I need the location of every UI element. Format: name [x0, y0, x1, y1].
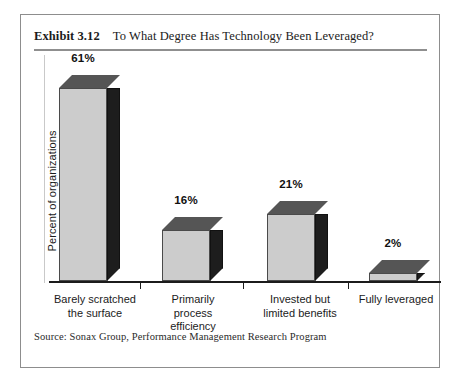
bars-layer: 61% 16% 21% — [21, 55, 439, 283]
x-axis-tick-3 — [348, 283, 349, 289]
bar-value-2: 21% — [267, 178, 315, 190]
x-axis-label-0-line-0: Barely scratched — [41, 293, 149, 307]
exhibit-title: Exhibit 3.12To What Degree Has Technolog… — [34, 29, 426, 44]
bar-value-1: 16% — [162, 194, 210, 206]
source-note: Source: Sonax Group, Performance Managem… — [34, 331, 327, 342]
x-axis-label-0-line-1: the surface — [41, 307, 149, 321]
bar-group-2: 21% — [267, 214, 315, 281]
bar-top-face-2 — [267, 201, 328, 214]
bar-front-face-2 — [267, 214, 315, 281]
x-axis-tick-2 — [243, 283, 244, 289]
bar-front-face-0 — [59, 88, 107, 281]
bar-side-face-2 — [315, 214, 328, 281]
bar-1 — [162, 230, 210, 281]
bar-front-face-3 — [369, 273, 417, 281]
x-axis-label-2-line-1: limited benefits — [247, 307, 353, 321]
exhibit-number: Exhibit 3.12 — [34, 29, 100, 43]
bar-side-face-3 — [417, 273, 430, 281]
bar-chart: Percent of organizations 61% 16% — [21, 55, 439, 327]
bar-side-face-0 — [107, 88, 120, 281]
bar-0 — [59, 88, 107, 281]
exhibit-frame: Exhibit 3.12To What Degree Has Technolog… — [20, 14, 440, 368]
bar-top-face-3 — [369, 260, 430, 273]
x-axis-label-2-line-0: Invested but — [247, 293, 353, 307]
bar-top-face-1 — [162, 217, 223, 230]
x-axis-label-3: Fully leveraged — [351, 293, 441, 307]
bar-group-1: 16% — [162, 230, 210, 281]
bar-2 — [267, 214, 315, 281]
x-axis-label-3-line-0: Fully leveraged — [351, 293, 441, 307]
x-axis-baseline — [49, 281, 441, 283]
x-axis-label-1-line-0: Primarily — [147, 293, 239, 307]
bar-group-3: 2% — [369, 273, 417, 281]
bar-group-0: 61% — [59, 88, 107, 281]
bar-front-face-1 — [162, 230, 210, 281]
exhibit-title-text: To What Degree Has Technology Been Lever… — [113, 29, 374, 43]
x-axis-tick-1 — [140, 283, 141, 289]
x-axis-label-0: Barely scratched the surface — [41, 293, 149, 320]
x-axis-label-1: Primarily process efficiency — [147, 293, 239, 334]
bar-value-3: 2% — [369, 237, 417, 249]
x-axis-label-1-line-1: process — [147, 307, 239, 321]
bar-side-face-1 — [210, 230, 223, 281]
bar-3 — [369, 273, 417, 281]
bar-value-0: 61% — [59, 52, 107, 64]
title-divider — [34, 49, 427, 51]
x-axis-label-2: Invested but limited benefits — [247, 293, 353, 320]
bar-top-face-0 — [59, 75, 120, 88]
